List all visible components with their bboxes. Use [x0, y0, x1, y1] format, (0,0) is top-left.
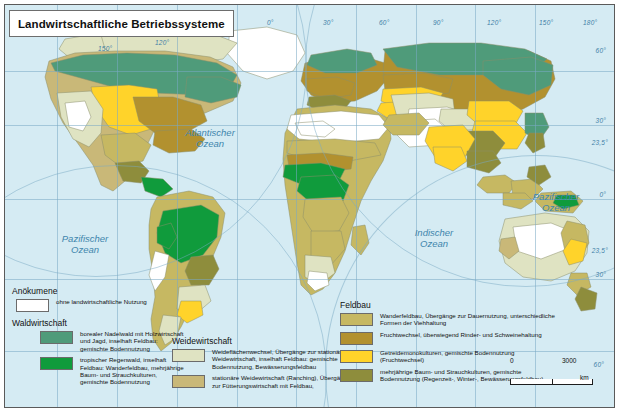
- ocean-label-pacific-east: Pazifischer Ozean: [41, 233, 129, 255]
- legend-anoekumene: Anökumene ohne landwirtschaftliche Nutzu…: [12, 286, 166, 315]
- lon-label-8: 180°: [583, 19, 597, 26]
- lat-label-60n: 60°: [596, 47, 606, 54]
- legend-item: borealer Nadelwald mit Holzwirtschaft un…: [12, 330, 184, 352]
- legend-label-ranching: stationäre Weidewirtschaft (Ranching), Ü…: [212, 374, 354, 389]
- ocean-label-indian: Indischer Ozean: [395, 227, 473, 249]
- legend-item: Weideflächenwechsel, Übergänge zur stati…: [172, 348, 354, 370]
- legend-weidewirtschaft-heading: Weidewirtschaft: [172, 336, 354, 346]
- lon-label-2: 0°: [267, 19, 274, 26]
- legend-anoekumene-heading: Anökumene: [12, 286, 166, 296]
- lon-label-4: 60°: [379, 19, 389, 26]
- scale-max-label: 3000: [562, 357, 576, 364]
- legend-item: tropischer Regenwald, inselhaft Feldbau:…: [12, 356, 184, 386]
- legend-swatch-ranching: [172, 375, 205, 388]
- ocean-label-atlantic-line2: Ozean: [165, 138, 255, 149]
- lon-label-extra-120: 120°: [155, 39, 169, 46]
- lat-label-30s: 30°: [596, 271, 606, 278]
- lon-label-5: 90°: [433, 19, 443, 26]
- ocean-label-indian-line2: Ozean: [395, 238, 473, 249]
- legend-label-shifting-cultivation: Wanderfeldbau, Übergänge zur Dauernutzun…: [380, 312, 556, 327]
- lon-label-3: 30°: [323, 19, 333, 26]
- legend-swatch-shifting-cultivation: [340, 313, 373, 326]
- lat-label-tropic-capricorn: 23,5°: [592, 247, 608, 254]
- ocean-label-pacific-west: Pazifischer Ozean: [513, 191, 599, 213]
- lat-label-tropic-cancer: 23,5°: [592, 139, 608, 146]
- lat-label-equator: 0°: [599, 191, 606, 198]
- scale-unit-label: km: [580, 374, 589, 381]
- legend-waldwirtschaft-heading: Waldwirtschaft: [12, 318, 184, 328]
- lon-label-7: 150°: [539, 19, 553, 26]
- legend-swatch-rainforest: [40, 357, 73, 370]
- legend-label-grain-monoculture: Getreidemonokulturen, gemischte Bodennut…: [380, 349, 556, 364]
- legend-swatch-crop-rotation: [340, 332, 373, 345]
- ocean-label-pacific-west-line2: Ozean: [513, 202, 599, 213]
- lat-label-60s: 60°: [594, 361, 604, 368]
- page-title: Landwirtschaftliche Betriebssysteme: [18, 18, 225, 30]
- legend-label-pasture-rotation: Weideflächenwechsel, Übergänge zur stati…: [212, 348, 354, 370]
- legend-waldwirtschaft: Waldwirtschaft borealer Nadelwald mit Ho…: [12, 318, 184, 390]
- ocean-label-pacific-east-line2: Ozean: [41, 244, 129, 255]
- ocean-label-atlantic-line1: Atlantischer: [165, 127, 255, 138]
- legend-item: stationäre Weidewirtschaft (Ranching), Ü…: [172, 374, 354, 389]
- lon-label-6: 120°: [487, 19, 501, 26]
- legend-swatch-uncultivated: [16, 299, 49, 312]
- legend-swatch-perennial-crops: [340, 369, 373, 382]
- lat-label-30n: 30°: [596, 117, 606, 124]
- legend-label-boreal-forest: borealer Nadelwald mit Holzwirtschaft un…: [80, 330, 184, 352]
- lon-label-extra-150: 150°: [98, 45, 112, 52]
- legend-swatch-pasture-rotation: [172, 349, 205, 362]
- legend-label-uncultivated: ohne landwirtschaftliche Nutzung: [56, 298, 166, 305]
- legend-label-crop-rotation: Fruchtwechsel, überwiegend Rinder- und S…: [380, 331, 556, 338]
- scale-bar: 0 3000 km: [510, 366, 593, 385]
- legend-item: Wanderfeldbau, Übergänge zur Dauernutzun…: [340, 312, 556, 327]
- legend-item: Getreidemonokulturen, gemischte Bodennut…: [340, 349, 556, 364]
- ocean-label-indian-line1: Indischer: [395, 227, 473, 238]
- scale-min-label: 0: [510, 357, 514, 364]
- legend-feldbau-heading: Feldbau: [340, 300, 556, 310]
- ocean-label-pacific-west-line1: Pazifischer: [513, 191, 599, 202]
- map-title-box: Landwirtschaftliche Betriebssysteme: [9, 10, 234, 37]
- legend-swatch-grain-monoculture: [340, 350, 373, 363]
- map-page: 60° 30° 0° 30° 60° 90° 120° 150° 180° 15…: [0, 0, 617, 410]
- legend-swatch-boreal-forest: [40, 331, 73, 344]
- legend-item: Fruchtwechsel, überwiegend Rinder- und S…: [340, 331, 556, 345]
- ocean-label-atlantic: Atlantischer Ozean: [165, 127, 255, 149]
- legend-item: ohne landwirtschaftliche Nutzung: [12, 298, 166, 312]
- legend-label-rainforest: tropischer Regenwald, inselhaft Feldbau:…: [80, 356, 184, 386]
- legend-weidewirtschaft: Weidewirtschaft Weideflächenwechsel, Übe…: [172, 336, 354, 393]
- ocean-label-pacific-east-line1: Pazifischer: [41, 233, 129, 244]
